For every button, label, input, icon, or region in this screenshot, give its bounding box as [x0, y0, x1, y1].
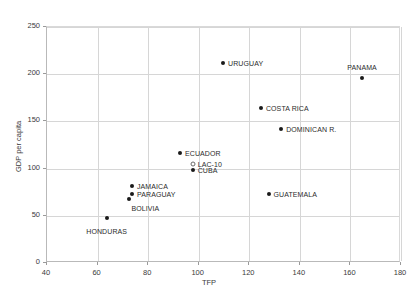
gridline-horizontal [47, 216, 399, 217]
data-point-label: BOLIVIA [131, 204, 159, 211]
gridline-vertical [350, 27, 351, 261]
data-point-label: DOMINICAN R. [286, 125, 336, 132]
x-axis-title: TFP [0, 278, 418, 287]
gridline-horizontal [47, 74, 399, 75]
scatter-chart: 050100150200250406080100120140160180HOND… [0, 0, 418, 293]
x-tick-mark [299, 262, 300, 265]
x-tick-label: 40 [42, 268, 50, 277]
x-tick-mark [46, 262, 47, 265]
y-tick-label: 250 [14, 21, 40, 30]
x-tick-mark [248, 262, 249, 265]
gridline-horizontal [47, 121, 399, 122]
data-point[interactable] [360, 76, 364, 80]
data-point-label: ECUADOR [185, 150, 221, 157]
x-tick-mark [198, 262, 199, 265]
x-tick-label: 140 [293, 268, 306, 277]
data-point-label: LAC-10 [198, 160, 222, 167]
data-point[interactable] [130, 184, 134, 188]
y-tick-label: 50 [14, 210, 40, 219]
x-tick-label: 120 [242, 268, 255, 277]
y-tick-label: 200 [14, 68, 40, 77]
data-point[interactable] [221, 61, 225, 65]
data-point[interactable] [105, 216, 109, 220]
gridline-vertical [98, 27, 99, 261]
data-point[interactable] [130, 192, 134, 196]
data-point[interactable] [191, 168, 195, 172]
data-point[interactable] [267, 192, 271, 196]
data-point-label: URUGUAY [228, 59, 263, 66]
x-tick-mark [349, 262, 350, 265]
y-tick-mark [43, 73, 46, 74]
y-tick-mark [43, 215, 46, 216]
data-point[interactable] [178, 151, 182, 155]
data-point[interactable] [127, 197, 131, 201]
gridline-vertical [401, 27, 402, 261]
gridline-vertical [199, 27, 200, 261]
data-point-label: GUATEMALA [274, 191, 318, 198]
gridline-horizontal [47, 169, 399, 170]
x-tick-mark [400, 262, 401, 265]
y-tick-mark [43, 26, 46, 27]
y-axis-title: GDP per capita [14, 121, 23, 172]
x-tick-label: 100 [191, 268, 204, 277]
y-tick-mark [43, 120, 46, 121]
y-tick-mark [43, 168, 46, 169]
data-point[interactable] [279, 127, 283, 131]
y-tick-label: 0 [14, 257, 40, 266]
x-tick-mark [147, 262, 148, 265]
x-tick-mark [97, 262, 98, 265]
x-tick-label: 80 [143, 268, 151, 277]
x-tick-label: 160 [343, 268, 356, 277]
data-point[interactable] [190, 161, 195, 166]
data-point-label: COSTA RICA [266, 105, 309, 112]
gridline-horizontal [47, 27, 399, 28]
data-point-label: CUBA [198, 167, 218, 174]
x-tick-label: 180 [394, 268, 407, 277]
data-point-label: JAMAICA [137, 182, 168, 189]
data-point-label: PARAGUAY [137, 191, 176, 198]
x-tick-label: 60 [92, 268, 100, 277]
gridline-vertical [300, 27, 301, 261]
gridline-vertical [148, 27, 149, 261]
data-point-label: HONDURAS [86, 227, 127, 234]
data-point-label: PANAMA [347, 63, 377, 70]
data-point[interactable] [259, 106, 263, 110]
